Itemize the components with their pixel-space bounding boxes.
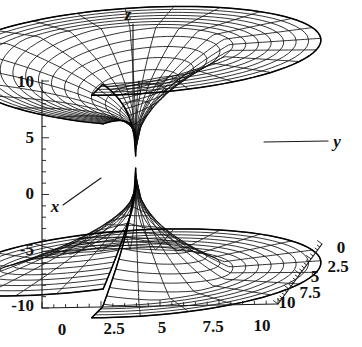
y-axis-label: y (331, 132, 341, 151)
x-axis-label: x (50, 197, 60, 216)
z-axis-label: z (124, 5, 132, 24)
x-tick-label-0: 0 (58, 320, 67, 339)
y-tick-label-10: 10 (279, 293, 296, 312)
z-tick-label-0: 0 (26, 184, 35, 203)
y-tick-label-0: 0 (337, 238, 346, 257)
x-tick-label-2p5: 2.5 (103, 319, 124, 338)
z-tick-label-10: 10 (17, 72, 34, 91)
y-tick-label-2p5: 2.5 (327, 257, 348, 276)
plot-canvas: 10 5 0 -5 -10 0 2.5 5 7.5 10 0 2.5 5 7.5… (0, 0, 362, 347)
x-tick-label-5: 5 (158, 318, 167, 337)
x-tick-label-7p5: 7.5 (202, 317, 223, 336)
z-tick-label-neg5: -5 (20, 240, 34, 259)
surface-plot-figure: 10 5 0 -5 -10 0 2.5 5 7.5 10 0 2.5 5 7.5… (0, 0, 362, 347)
z-tick-label-neg10: -10 (11, 296, 34, 315)
y-tick-label-7p5: 7.5 (299, 283, 320, 302)
z-tick-label-5: 5 (26, 128, 35, 147)
x-tick-label-10: 10 (254, 316, 271, 335)
